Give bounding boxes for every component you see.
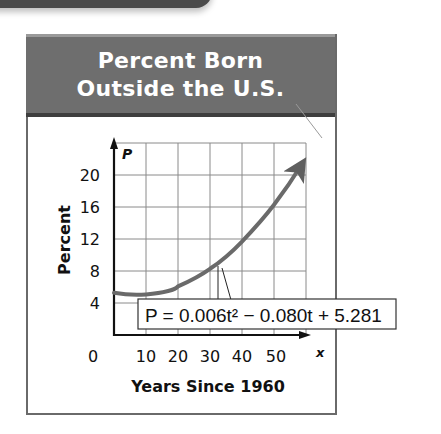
x-tick-labels: 0 10 20 30 40 50 (88, 347, 286, 366)
plot-area: P = 0.006t² − 0.080t + 5.281 P x 20 16 1… (0, 0, 441, 434)
x-axis-variable: x (315, 345, 325, 360)
y-tick-4: 4 (90, 294, 100, 313)
y-axis-title: Percent (55, 205, 74, 275)
equation-label: P = 0.006t² − 0.080t + 5.281 (145, 305, 382, 326)
y-tick-16: 16 (80, 198, 100, 217)
y-tick-20: 20 (80, 166, 100, 185)
scan-crease-line (296, 104, 322, 138)
x-tick-30: 30 (200, 347, 220, 366)
y-tick-12: 12 (80, 230, 100, 249)
x-tick-0: 0 (88, 347, 98, 366)
x-tick-40: 40 (232, 347, 252, 366)
x-tick-10: 10 (136, 347, 156, 366)
y-tick-labels: 20 16 12 8 4 (80, 166, 100, 313)
y-tick-8: 8 (90, 262, 100, 281)
x-tick-50: 50 (266, 347, 286, 366)
x-tick-20: 20 (168, 347, 188, 366)
x-axis-arrow-icon (299, 331, 311, 339)
x-axis-title: Years Since 1960 (130, 377, 285, 396)
y-axis-variable: P (122, 146, 133, 162)
